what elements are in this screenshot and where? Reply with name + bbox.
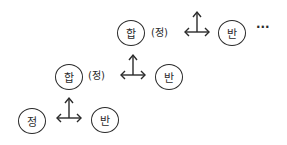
thesis-note-level-3: (정) xyxy=(151,27,168,39)
synthesis-node-level-3: 합 xyxy=(117,20,145,46)
thesis-note-level-2: (정) xyxy=(88,70,105,82)
thesis-node-level-1: 정 xyxy=(18,108,46,134)
bidirectional-arrow-icon xyxy=(119,53,147,83)
antithesis-node-level-1: 반 xyxy=(91,107,119,133)
bidirectional-arrow-icon xyxy=(183,10,211,40)
synthesis-node-level-2: 합 xyxy=(55,64,83,90)
antithesis-node-level-3: 반 xyxy=(218,20,246,46)
continuation-ellipsis: ··· xyxy=(256,20,270,34)
bidirectional-arrow-icon xyxy=(55,96,83,126)
antithesis-node-level-2: 반 xyxy=(155,64,183,90)
